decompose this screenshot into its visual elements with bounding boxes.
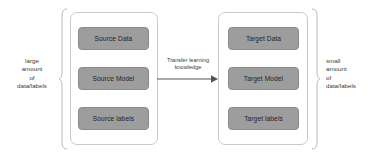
target-labels-node[interactable]: Target labels	[228, 107, 299, 130]
source-model-node[interactable]: Source Model	[78, 67, 149, 90]
transfer-arrow-icon	[157, 72, 219, 86]
diagram-canvas: large amount of data/labels Source Data …	[0, 0, 386, 158]
left-brace-icon	[58, 8, 68, 150]
right-data-amount-label: small amount of data/labels	[326, 57, 384, 91]
target-model-node[interactable]: Target Model	[228, 67, 299, 90]
left-data-amount-label: large amount of data/labels	[6, 57, 58, 91]
right-brace-icon	[311, 8, 321, 150]
source-data-node[interactable]: Source Data	[78, 27, 149, 50]
target-data-node[interactable]: Target Data	[228, 27, 299, 50]
transfer-knowledge-label: Transfer learning knowledge	[156, 57, 220, 71]
source-labels-node[interactable]: Source labels	[78, 107, 149, 130]
